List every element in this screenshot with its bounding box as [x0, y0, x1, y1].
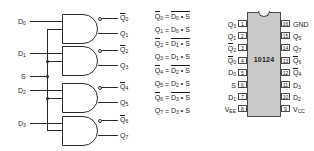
output-label-q1: Q1	[120, 30, 128, 39]
output-label-q0-bar: Q0	[120, 14, 128, 23]
equation-rhs: D3 • S	[171, 94, 190, 102]
equation-rhs: D1 • S	[171, 53, 190, 61]
pin-number-9: 9	[281, 105, 290, 112]
wire-s-branch-gate0	[47, 29, 62, 30]
equation-row-0: Q0=D0 • S	[146, 10, 214, 24]
equation-equals-sign: =	[163, 108, 171, 115]
junction-dot-s-gate1	[46, 60, 49, 63]
pin-label-14: Q7	[293, 45, 301, 54]
boolean-equation-list: Q0=D0 • SQ1=D0 • SQ2=D1 • SQ3=D1 • SQ4=D…	[146, 10, 214, 118]
pin-number-15: 15	[281, 32, 290, 39]
equation-equals-sign: =	[163, 40, 171, 47]
pin-label-16: GND	[293, 21, 309, 28]
input-label-d1: D1	[18, 50, 26, 59]
junction-dot-s-gate2	[46, 97, 49, 100]
pin-number-4: 4	[238, 57, 247, 64]
gate-1	[62, 46, 106, 76]
pin-label-4: Q0	[214, 57, 236, 66]
pin-label-8: VEE	[214, 106, 236, 115]
gate-2	[62, 83, 106, 113]
wire-gate-1-out-true	[98, 65, 118, 66]
wire-gate-2-out-inv	[102, 87, 118, 88]
equation-row-6: Q6=D3 • S	[146, 91, 214, 105]
ic-part-number: 10124	[247, 56, 281, 63]
equation-equals-sign: =	[163, 67, 171, 74]
equation-lhs: Q0	[146, 13, 163, 21]
gate-0	[62, 14, 106, 44]
pin-number-1: 1	[238, 20, 247, 27]
equation-equals-sign: =	[163, 27, 171, 34]
equation-lhs: Q7	[146, 107, 163, 115]
equation-row-7: Q7=D3 • S	[146, 105, 214, 119]
pin-number-16: 16	[281, 20, 290, 27]
pin-number-12: 12	[281, 69, 290, 76]
pin-label-13: Q6	[293, 57, 301, 66]
equation-rhs: D0 • S	[171, 26, 190, 34]
wire-d0-input	[30, 21, 62, 22]
equation-lhs: Q6	[146, 94, 163, 102]
wire-gate-1-out-inv	[102, 50, 118, 51]
equation-rhs: D2 • S	[171, 67, 190, 75]
wire-gate-3-out-inv	[102, 120, 118, 121]
pin-number-11: 11	[281, 81, 290, 88]
wire-gate-2-out-true	[98, 102, 118, 103]
equation-rhs: D1 • S	[171, 40, 190, 48]
gate-0-body	[62, 14, 98, 44]
pin-number-8: 8	[238, 105, 247, 112]
equation-row-1: Q1=D0 • S	[146, 24, 214, 38]
gate-3-body	[62, 116, 98, 146]
equation-lhs: Q1	[146, 26, 163, 34]
equation-lhs: Q3	[146, 53, 163, 61]
gate-1-body	[62, 46, 98, 76]
pin-label-10: D2	[293, 94, 301, 103]
equation-lhs: Q2	[146, 40, 163, 48]
output-label-q4-bar: Q4	[120, 83, 128, 92]
output-label-q3: Q3	[120, 62, 128, 71]
pin-label-6: S	[214, 82, 236, 89]
equation-rhs: D2 • S	[171, 80, 190, 88]
pin-number-7: 7	[238, 93, 247, 100]
gate-2-body	[62, 83, 98, 113]
equation-lhs: Q4	[146, 67, 163, 75]
output-label-q5: Q5	[120, 99, 128, 108]
output-label-q7: Q7	[120, 132, 128, 141]
wire-s-bus-vertical	[47, 29, 48, 130]
wire-gate-0-out-true	[98, 33, 118, 34]
equation-lhs: Q5	[146, 80, 163, 88]
pin-number-6: 6	[238, 81, 247, 88]
equation-equals-sign: =	[163, 13, 171, 20]
pin-label-15: Q5	[293, 33, 301, 42]
wire-d3-input	[30, 123, 62, 124]
pin-label-1: Q3	[214, 21, 236, 30]
pin-number-14: 14	[281, 44, 290, 51]
pin-number-5: 5	[238, 69, 247, 76]
pin-number-3: 3	[238, 44, 247, 51]
junction-dot-s-main	[46, 75, 49, 78]
equation-rhs: D3 • S	[171, 107, 190, 115]
output-label-q2-bar: Q2	[120, 46, 128, 55]
equation-row-4: Q4=D2 • S	[146, 64, 214, 78]
logic-diagram-figure: D0 D1 S D2 D3	[0, 0, 314, 151]
equation-row-2: Q2=D1 • S	[146, 37, 214, 51]
input-label-d0: D0	[18, 18, 26, 27]
wire-gate-0-out-inv	[102, 18, 118, 19]
wire-s-branch-gate2	[47, 98, 62, 99]
wire-gate-3-out-true	[98, 135, 118, 136]
ic-package-body	[247, 12, 281, 117]
pin-label-11: D3	[293, 82, 301, 91]
equation-row-5: Q5=D2 • S	[146, 78, 214, 92]
pin-label-2: Q1	[214, 33, 236, 42]
output-label-q6-bar: Q6	[120, 116, 128, 125]
equation-rhs: D0 • S	[171, 13, 190, 21]
pin-label-3: Q2	[214, 45, 236, 54]
ic-pinout-diagram: 10124 1Q32Q13Q24Q05D06S7D18VEE16GND15Q51…	[214, 12, 314, 122]
gate-schematic: D0 D1 S D2 D3	[0, 0, 142, 151]
wire-s-branch-gate1	[47, 61, 62, 62]
pin-label-9: VCC	[293, 106, 305, 115]
equation-row-3: Q3=D1 • S	[146, 51, 214, 65]
equation-equals-sign: =	[163, 81, 171, 88]
input-label-s: S	[21, 73, 26, 82]
equation-equals-sign: =	[163, 94, 171, 101]
pin-number-10: 10	[281, 93, 290, 100]
pin-number-2: 2	[238, 32, 247, 39]
